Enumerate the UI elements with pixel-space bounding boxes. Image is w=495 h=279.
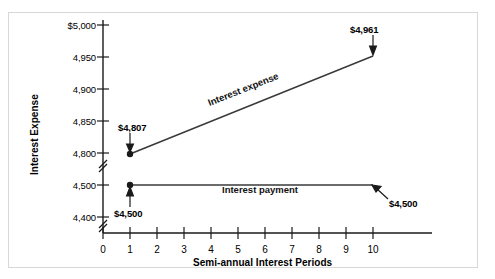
y-axis-title: Interest Expense [30, 94, 40, 175]
series-label-interest-payment: Interest payment [222, 185, 298, 195]
x-tick-label-6: 6 [255, 245, 275, 255]
callout-arrow-expense-start [127, 133, 134, 152]
x-tick-label-10: 10 [363, 245, 383, 255]
x-tick-label-0: 0 [93, 245, 113, 255]
callout-expense-end: $4,961 [350, 25, 378, 35]
y-tick-label-4500: 4,500 [38, 181, 96, 191]
y-tick-label-4850: 4,850 [38, 117, 96, 127]
x-axis-title: Semi-annual Interest Periods [193, 258, 332, 268]
x-tick-label-3: 3 [174, 245, 194, 255]
callout-payment-start: $4,500 [114, 209, 142, 219]
y-tick-label-4950: 4,950 [38, 53, 96, 63]
callout-arrow-payment-start [127, 187, 134, 207]
y-tick-label-4400: 4,400 [38, 213, 96, 223]
callout-expense-start: $4,807 [118, 123, 146, 133]
x-tick-label-1: 1 [120, 245, 140, 255]
x-tick-label-8: 8 [309, 245, 329, 255]
y-tick-label-5000: $5,000 [38, 21, 96, 31]
x-tick-label-5: 5 [228, 245, 248, 255]
callout-arrow-payment-end [372, 185, 388, 199]
callout-arrow-expense-end [370, 35, 377, 55]
plot-area [0, 0, 495, 279]
y-tick-label-4900: 4,900 [38, 85, 96, 95]
x-tick-label-7: 7 [282, 245, 302, 255]
x-tick-label-2: 2 [147, 245, 167, 255]
x-tick-label-9: 9 [336, 245, 356, 255]
y-tick-label-4800: 4,800 [38, 149, 96, 159]
x-tick-label-4: 4 [201, 245, 221, 255]
callout-payment-end: $4,500 [389, 199, 417, 209]
chart-figure: $5,000 4,950 4,900 4,850 4,800 4,500 4,4… [0, 0, 495, 279]
interest-expense-line [130, 56, 373, 154]
